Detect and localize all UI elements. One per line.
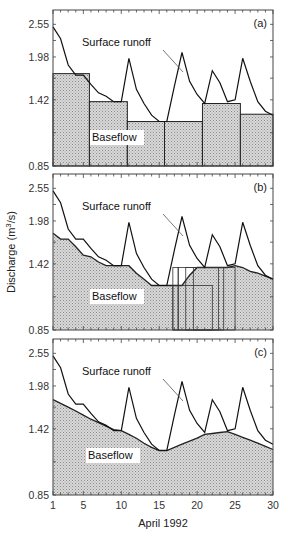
baseflow-annotation: Baseflow [92, 290, 137, 302]
y-tick-label: 1.42 [29, 94, 50, 106]
y-tick-label: 2.55 [29, 182, 50, 194]
y-tick-label: 1.98 [29, 380, 50, 392]
surface-runoff-annotation: Surface runoff [82, 36, 152, 48]
y-tick-label: 1.98 [29, 215, 50, 227]
baseflow-step [202, 104, 240, 166]
baseflow-step [165, 122, 203, 166]
y-tick-label: 2.55 [29, 18, 50, 30]
panel-a: 0.851.421.982.55(a)Surface runoffBaseflo… [29, 10, 273, 172]
y-tick-label: 2.55 [29, 347, 50, 359]
baseflow-area [53, 233, 273, 330]
y-tick-label: 0.85 [29, 160, 50, 172]
y-tick-label: 0.85 [29, 324, 50, 336]
surface-runoff-annotation: Surface runoff [82, 200, 152, 212]
baseflow-annotation: Baseflow [88, 449, 133, 461]
surface-runoff-annotation: Surface runoff [82, 365, 152, 377]
panel-label: (a) [254, 17, 267, 29]
panel-b: 0.851.421.982.55(b)Surface runoffBaseflo… [29, 174, 273, 336]
x-tick-label: 30 [267, 499, 279, 511]
baseflow-step [240, 114, 273, 166]
x-tick-label: 20 [191, 499, 203, 511]
x-axis-label: April 1992 [138, 517, 188, 529]
y-tick-label: 0.85 [29, 489, 50, 501]
y-tick-label: 1.42 [29, 258, 50, 270]
discharge-chart: 0.851.421.982.55(a)Surface runoffBaseflo… [0, 0, 284, 535]
panel-c: 0.851.421.982.55(c)Surface runoffBaseflo… [29, 339, 279, 511]
x-tick-label: 5 [80, 499, 86, 511]
panel-label: (b) [254, 181, 267, 193]
y-tick-label: 1.42 [29, 423, 50, 435]
x-tick-label: 10 [115, 499, 127, 511]
baseflow-area [53, 400, 273, 495]
baseflow-annotation: Baseflow [92, 131, 137, 143]
x-tick-label: 1 [50, 499, 56, 511]
x-tick-label: 25 [229, 499, 241, 511]
y-axis-label: Discharge (m3/s) [4, 211, 17, 293]
panel-label: (c) [254, 346, 267, 358]
y-tick-label: 1.98 [29, 51, 50, 63]
x-tick-label: 15 [153, 499, 165, 511]
baseflow-step [53, 74, 89, 166]
